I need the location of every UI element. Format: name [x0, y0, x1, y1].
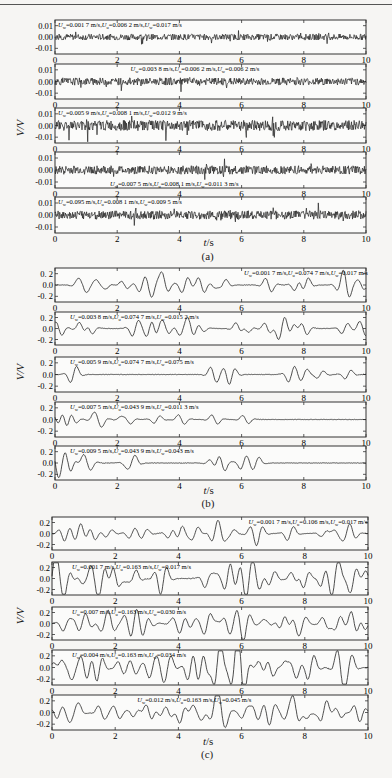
x-tick-label: 10	[364, 731, 374, 741]
y-tick-label: -0. 2	[37, 381, 53, 391]
y-tick-label: 0.0	[42, 458, 53, 468]
x-axis-label-c: t/s	[203, 735, 213, 747]
y-tick-label: 0.0	[39, 663, 50, 673]
y-tick-label: 0.00	[38, 210, 53, 220]
x-tick-label: 4	[176, 731, 181, 741]
y-tick-label: 0.2	[39, 518, 50, 528]
x-tick-label: 8	[302, 234, 307, 244]
x-tick-label: 6	[239, 481, 244, 491]
y-tick-label: 0.00	[38, 165, 53, 175]
y-tick-label: -0.01	[35, 222, 53, 232]
y-tick-label: -0.01	[35, 132, 53, 142]
y-tick-label: 0.0	[42, 415, 53, 425]
y-tick-label: 0. 2	[40, 358, 53, 368]
x-tick-label: 2	[115, 346, 120, 356]
y-tick-label: 0.0	[42, 370, 53, 380]
y-tick-label: 0. 2	[40, 269, 53, 279]
x-tick-label: 0	[50, 551, 55, 561]
x-tick-label: 10	[364, 551, 374, 561]
y-tick-label: 0. 2	[40, 447, 53, 457]
figure-canvas: 0.010.00-0.010246810Uw=0.001 7 m/s,Uu=0.…	[0, 0, 392, 778]
x-tick-label: 6	[239, 551, 244, 561]
x-tick-label: 0	[53, 481, 58, 491]
y-tick-label: -0.2	[37, 585, 50, 595]
y-tick-label: 0.0	[42, 324, 53, 334]
y-tick-label: 0.0	[42, 280, 53, 290]
y-tick-label: -0.2	[37, 540, 50, 550]
x-tick-label: 8	[303, 551, 308, 561]
y-tick-label: -0.2	[37, 630, 50, 640]
y-axis-label-a: V/V	[14, 120, 26, 137]
y-tick-label: 0.00	[38, 32, 53, 42]
y-tick-label: 0.00	[38, 121, 53, 131]
y-tick-label: -0. 2	[37, 426, 53, 436]
y-tick-label: 0.0	[39, 529, 50, 539]
y-tick-label: -0. 2	[37, 335, 53, 345]
x-tick-label: 6	[239, 596, 244, 606]
x-tick-label: 10	[364, 596, 374, 606]
y-tick-label: 0.2	[39, 696, 50, 706]
x-tick-label: 6	[239, 346, 244, 356]
y-tick-label: 0.0	[39, 708, 50, 718]
x-tick-label: 4	[176, 596, 181, 606]
x-tick-label: 8	[303, 731, 308, 741]
x-tick-label: 8	[302, 481, 307, 491]
x-axis-label-b: t/s	[204, 484, 214, 496]
x-tick-label: 2	[113, 596, 118, 606]
y-tick-label: -0.01	[35, 177, 53, 187]
x-tick-label: 4	[177, 346, 182, 356]
x-tick-label: 8	[302, 346, 307, 356]
y-tick-label: 0.01	[38, 21, 53, 31]
x-tick-label: 8	[303, 596, 308, 606]
y-tick-label: -0.01	[35, 43, 53, 53]
x-tick-label: 2	[115, 234, 120, 244]
x-tick-label: 0	[53, 346, 58, 356]
y-tick-label: 0.2	[39, 563, 50, 573]
y-tick-label: -0. 2	[37, 291, 53, 301]
y-tick-label: -0.2	[37, 719, 50, 729]
y-tick-label: -0.01	[35, 88, 53, 98]
y-tick-label: 0.01	[38, 198, 53, 208]
x-tick-label: 2	[113, 551, 118, 561]
y-tick-label: 0. 2	[40, 403, 53, 413]
y-tick-label: 0. 2	[40, 313, 53, 323]
y-tick-label: -0.2	[37, 674, 50, 684]
caption-b: (b)	[202, 497, 215, 509]
y-tick-label: 0.0	[39, 619, 50, 629]
x-tick-label: 4	[177, 481, 182, 491]
y-tick-label: 0.2	[39, 651, 50, 661]
x-tick-label: 0	[53, 234, 58, 244]
x-axis-label-a: t/s	[204, 236, 214, 248]
y-tick-label: -0. 2	[37, 469, 53, 479]
x-tick-label: 0	[50, 731, 55, 741]
x-tick-label: 4	[177, 234, 182, 244]
x-tick-label: 4	[176, 551, 181, 561]
y-tick-label: 0.01	[38, 65, 53, 75]
x-tick-label: 10	[362, 481, 372, 491]
y-tick-label: 0.01	[38, 153, 53, 163]
x-tick-label: 6	[239, 731, 244, 741]
y-tick-label: 0.2	[39, 608, 50, 618]
x-tick-label: 6	[239, 234, 244, 244]
caption-c: (c)	[201, 748, 213, 760]
x-tick-label: 10	[362, 234, 372, 244]
y-axis-label-c: V/V	[14, 608, 26, 625]
caption-a: (a)	[202, 250, 214, 262]
x-tick-label: 2	[115, 481, 120, 491]
y-tick-label: 0.0	[39, 574, 50, 584]
y-axis-label-b: V/V	[14, 364, 26, 381]
x-tick-label: 10	[362, 346, 372, 356]
y-tick-label: 0.01	[38, 109, 53, 119]
x-tick-label: 2	[113, 731, 118, 741]
x-tick-label: 0	[50, 596, 55, 606]
y-tick-label: 0.00	[38, 77, 53, 87]
